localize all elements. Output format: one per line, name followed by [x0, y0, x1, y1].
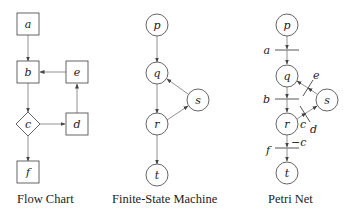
- petri-net: a b c d e −c f p q r: [263, 14, 338, 206]
- caption-flow-chart: Flow Chart: [17, 192, 74, 206]
- svg-text:d: d: [73, 118, 80, 131]
- diagram-canvas: a b e c d f Flow Chart: [0, 0, 351, 211]
- flow-chart: a b e c d f Flow Chart: [16, 13, 88, 206]
- svg-text:r: r: [154, 118, 160, 131]
- svg-text:b: b: [263, 93, 270, 106]
- svg-text:a: a: [25, 18, 32, 31]
- place-s: s: [316, 89, 338, 111]
- state-s: s: [187, 89, 209, 111]
- node-f: f: [17, 161, 39, 183]
- svg-text:q: q: [153, 67, 160, 80]
- node-c-decision: c: [16, 112, 40, 136]
- svg-text:q: q: [283, 70, 290, 83]
- svg-text:t: t: [285, 167, 290, 180]
- arc-label-inhibit-c: −c: [291, 136, 306, 149]
- svg-text:e: e: [313, 69, 320, 82]
- state-q: q: [146, 62, 168, 84]
- node-d: d: [66, 113, 88, 135]
- place-t: t: [276, 162, 298, 184]
- caption-petri-net: Petri Net: [268, 192, 313, 206]
- state-p: p: [146, 14, 168, 36]
- svg-text:e: e: [74, 66, 81, 79]
- svg-text:b: b: [24, 66, 31, 79]
- svg-text:f: f: [265, 144, 272, 157]
- svg-text:a: a: [263, 44, 270, 57]
- finite-state-machine: p q r s t Finite-State Machine: [112, 14, 218, 206]
- state-r: r: [146, 113, 168, 135]
- svg-text:d: d: [310, 123, 317, 136]
- svg-text:c: c: [25, 118, 31, 131]
- svg-text:p: p: [283, 19, 290, 32]
- arc-s-e: [308, 88, 317, 94]
- arc-d-s: [306, 106, 317, 113]
- node-a: a: [17, 13, 39, 35]
- svg-text:s: s: [195, 94, 201, 107]
- node-b: b: [17, 61, 39, 83]
- place-r: r: [276, 113, 298, 135]
- svg-text:s: s: [324, 94, 330, 107]
- edge-r-s: [167, 106, 188, 120]
- place-p: p: [276, 14, 298, 36]
- node-e: e: [66, 61, 88, 83]
- svg-text:p: p: [153, 19, 160, 32]
- arc-e-q: [297, 81, 308, 88]
- edge-s-q: [167, 79, 188, 94]
- state-t: t: [146, 164, 168, 186]
- svg-text:r: r: [284, 118, 290, 131]
- place-q: q: [276, 65, 298, 87]
- svg-text:t: t: [155, 169, 160, 182]
- arc-label-c: c: [300, 118, 306, 131]
- caption-fsm: Finite-State Machine: [112, 192, 218, 206]
